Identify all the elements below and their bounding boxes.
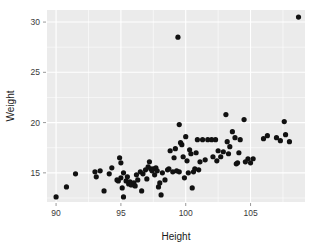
data-point (181, 154, 186, 159)
data-point (210, 154, 215, 159)
y-tick-label: 15 (31, 168, 41, 178)
data-point (157, 180, 162, 185)
data-point (64, 184, 69, 189)
data-point (296, 14, 301, 19)
data-point (236, 150, 241, 155)
data-point (218, 154, 223, 159)
data-point (213, 137, 218, 142)
data-point (182, 175, 187, 180)
x-tick-label: 100 (179, 208, 193, 218)
data-point (107, 171, 112, 176)
data-point (173, 146, 178, 151)
data-point (133, 183, 138, 188)
chart-canvas: 9095100105 15202530 Height Weight (0, 0, 315, 248)
data-point (195, 137, 200, 142)
data-point (144, 176, 149, 181)
data-point (147, 159, 152, 164)
y-tick-label: 20 (31, 118, 41, 128)
x-tick-label: 105 (243, 208, 257, 218)
data-point (265, 133, 270, 138)
data-point (109, 165, 114, 170)
data-point (251, 156, 256, 161)
data-point (188, 151, 193, 156)
data-point (235, 160, 240, 165)
data-point (183, 134, 188, 139)
data-point (197, 159, 202, 164)
data-point (196, 167, 201, 172)
data-point (232, 135, 237, 140)
data-point (101, 188, 106, 193)
data-point (53, 194, 58, 199)
data-point (94, 174, 99, 179)
y-tick-label: 30 (31, 17, 41, 27)
data-point (190, 185, 195, 190)
data-point (203, 157, 208, 162)
data-point (73, 171, 78, 176)
data-point (214, 158, 219, 163)
data-point (200, 137, 205, 142)
data-point (118, 175, 123, 180)
data-point (98, 168, 103, 173)
data-point (177, 122, 182, 127)
data-point (179, 142, 184, 147)
data-point (177, 169, 182, 174)
data-point (117, 155, 122, 160)
data-point (120, 185, 125, 190)
data-point (227, 144, 232, 149)
y-axis-title: Weight (5, 90, 16, 121)
data-point (225, 139, 230, 144)
data-point (125, 174, 130, 179)
data-point (238, 137, 243, 142)
data-point (158, 192, 163, 197)
data-point (160, 170, 165, 175)
y-tick-label: 25 (31, 67, 41, 77)
x-tick-label: 90 (51, 208, 61, 218)
data-point (287, 139, 292, 144)
data-point (186, 170, 191, 175)
data-point (92, 169, 97, 174)
data-point (216, 148, 221, 153)
data-point (135, 177, 140, 182)
data-point (162, 177, 167, 182)
data-point (278, 138, 283, 143)
data-point (283, 132, 288, 137)
data-point (121, 170, 126, 175)
x-axis-title: Height (162, 231, 191, 242)
data-point (223, 112, 228, 117)
data-point (241, 117, 246, 122)
scatter-plot-figure: 9095100105 15202530 Height Weight (0, 0, 315, 248)
data-point (171, 155, 176, 160)
data-point (282, 119, 287, 124)
data-point (193, 150, 198, 155)
data-point (168, 148, 173, 153)
data-point (155, 168, 160, 173)
data-point (118, 160, 123, 165)
data-point (139, 188, 144, 193)
x-tick-label: 95 (116, 208, 126, 218)
data-point (121, 194, 126, 199)
data-point (230, 129, 235, 134)
data-point (184, 158, 189, 163)
data-point (221, 149, 226, 154)
data-point (175, 35, 180, 40)
data-point (226, 151, 231, 156)
